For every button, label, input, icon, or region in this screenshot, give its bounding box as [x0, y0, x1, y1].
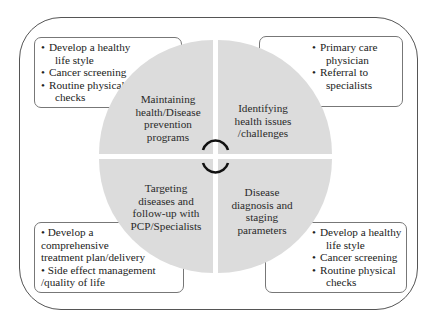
cycle-arrows-icon [203, 141, 228, 173]
quadrant-label-top-left: Maintaining health/Disease prevention pr… [118, 93, 218, 143]
circle-quadrants [99, 40, 332, 273]
quadrant-label-bottom-left: Targeting diseases and follow-up with PC… [118, 182, 214, 232]
cycle-circle [0, 0, 437, 323]
quadrant-label-bottom-right: Disease diagnosis and staging parameters [216, 186, 308, 236]
quadrant-label-top-right: Identifying health issues /challenges [218, 102, 308, 140]
